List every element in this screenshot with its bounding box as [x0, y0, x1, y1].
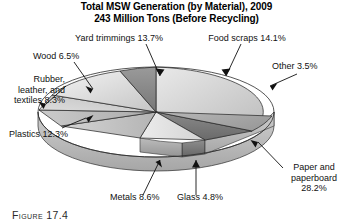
label-plastics: Plastics 12.3% — [9, 129, 68, 140]
figure-caption: Figure 17.4 — [12, 209, 353, 223]
label-glass: Glass 4.8% — [177, 192, 223, 203]
leader-line-other — [270, 74, 297, 86]
label-food-scraps: Food scraps 14.1% — [195, 33, 299, 44]
figure-container: Total MSW Generation (by Material), 2009… — [0, 0, 353, 223]
figure-number: Figure 17.4 — [12, 209, 68, 221]
label-other: Other 3.5% — [272, 61, 318, 72]
label-rubber-leather-textiles: Rubber, leather, and textiles 8.3% — [2, 74, 65, 106]
label-paper-and-paperboard: Paper and paperboard 28.2% — [277, 162, 351, 194]
label-wood: Wood 6.5% — [33, 51, 79, 62]
label-metals: Metals 8.6% — [110, 192, 160, 203]
label-yard-trimmings: Yard trimmings 13.7% — [60, 33, 178, 44]
